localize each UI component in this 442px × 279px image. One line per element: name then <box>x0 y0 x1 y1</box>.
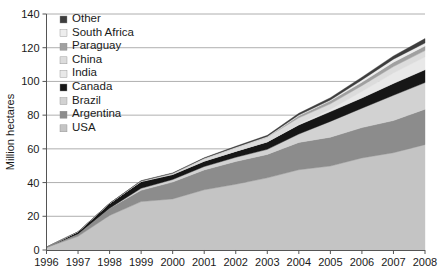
x-tick-label: 2008 <box>413 256 437 268</box>
x-tick-label: 2005 <box>318 256 342 268</box>
legend-swatch-paraguay <box>60 43 67 50</box>
y-tick-label: 120 <box>21 42 39 54</box>
legend-label-paraguay: Paraguay <box>72 39 121 51</box>
x-tick-label: 2003 <box>255 256 279 268</box>
y-tick-label: 20 <box>27 210 39 222</box>
y-axis-title: Million hectares <box>4 93 16 170</box>
x-tick-label: 1997 <box>66 256 90 268</box>
y-tick-label: 140 <box>21 8 39 20</box>
legend-swatch-usa <box>60 125 67 132</box>
y-tick-label: 40 <box>27 177 39 189</box>
legend-label-south-africa: South Africa <box>72 26 135 38</box>
x-tick-label: 2004 <box>287 256 311 268</box>
legend-label-usa: USA <box>72 121 96 133</box>
x-tick-label: 2000 <box>160 256 184 268</box>
x-tick-label: 2006 <box>350 256 374 268</box>
chart-canvas: 020406080100120140 199619971998199920002… <box>0 0 442 279</box>
y-tick-label: 80 <box>27 109 39 121</box>
x-tick-label: 2002 <box>224 256 248 268</box>
legend-swatch-south-africa <box>60 30 67 37</box>
legend-swatch-other <box>60 16 67 23</box>
legend-swatch-india <box>60 70 67 77</box>
x-tick-label: 2007 <box>381 256 405 268</box>
legend-label-china: China <box>72 53 103 65</box>
x-tick-label: 1998 <box>97 256 121 268</box>
legend-label-argentina: Argentina <box>72 107 122 119</box>
legend-label-canada: Canada <box>72 80 113 92</box>
legend-swatch-brazil <box>60 98 67 105</box>
y-tick-label: 0 <box>33 244 39 256</box>
x-tick-label: 2001 <box>192 256 216 268</box>
x-tick-label: 1999 <box>129 256 153 268</box>
legend-label-india: India <box>72 66 98 78</box>
legend-swatch-china <box>60 57 67 64</box>
legend-swatch-canada <box>60 84 67 91</box>
legend-swatch-argentina <box>60 111 67 118</box>
legend-label-other: Other <box>72 12 101 24</box>
y-tick-label: 100 <box>21 75 39 87</box>
y-tick-label: 60 <box>27 143 39 155</box>
stacked-area-chart: 020406080100120140 199619971998199920002… <box>0 0 442 279</box>
legend-label-brazil: Brazil <box>72 94 101 106</box>
x-tick-label: 1996 <box>34 256 58 268</box>
